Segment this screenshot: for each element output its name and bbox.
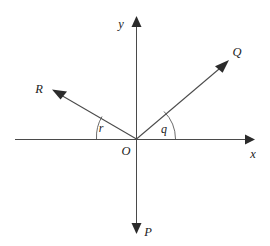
y-axis-arrowhead-down-icon [132, 223, 142, 234]
vector-diagram-figure: y x O Q R P q r [0, 0, 270, 246]
x-axis-arrowhead-icon [245, 135, 255, 145]
angle-q-label: q [161, 122, 167, 136]
vector-r-label: R [34, 82, 43, 96]
angle-r-label: r [99, 121, 104, 135]
y-axis-arrowhead-up-icon [132, 16, 142, 27]
vector-diagram-canvas: y x O Q R P q r [0, 0, 270, 246]
x-axis-label: x [249, 147, 256, 161]
vector-q-label: Q [232, 45, 241, 59]
vector-p-label: P [143, 225, 152, 239]
y-axis-label: y [116, 17, 124, 31]
vector-q-line [137, 67, 223, 140]
vector-r-arrowhead-icon [52, 90, 67, 100]
origin-label: O [121, 144, 130, 158]
